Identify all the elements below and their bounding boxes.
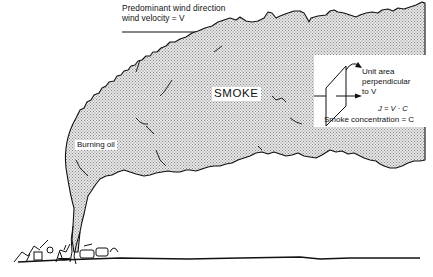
smoke-plume-diagram: Predominant wind direction wind velocity…: [0, 0, 433, 277]
ground-line: [18, 257, 420, 262]
smoke-concentration-label: Smoke concentration = C: [324, 116, 414, 124]
unit-area-label-line1: Unit area: [362, 68, 394, 76]
unit-area-label-line3: to V: [362, 88, 376, 96]
burning-oil-label: Burning oil: [75, 140, 117, 150]
flux-equation: J = V · C: [378, 105, 408, 113]
smoke-label: SMOKE: [212, 87, 261, 101]
wind-direction-label: Predominant wind direction: [122, 4, 226, 12]
unit-area-label-line2: perpendicular: [362, 78, 410, 86]
wind-velocity-label: wind velocity = V: [122, 14, 185, 22]
